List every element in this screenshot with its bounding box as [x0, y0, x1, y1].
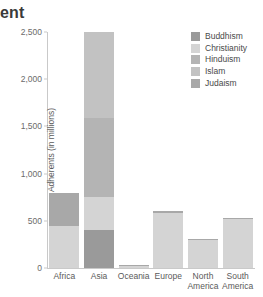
bar-segment-hinduism[interactable]: [84, 118, 114, 196]
y-axis-tick-mark: [44, 126, 47, 127]
legend-swatch-icon: [191, 79, 200, 88]
y-axis-tick-mark: [44, 79, 47, 80]
x-axis-label-line: South: [211, 271, 263, 281]
bar-segment-christianity[interactable]: [84, 197, 114, 231]
bar-segment-christianity[interactable]: [223, 218, 253, 268]
bar-asia[interactable]: [84, 32, 114, 268]
legend-swatch-icon: [191, 32, 200, 41]
legend-item-hinduism[interactable]: Hinduism: [191, 54, 247, 66]
legend-label: Buddhism: [205, 32, 243, 41]
legend-item-buddhism[interactable]: Buddhism: [191, 31, 247, 43]
legend-item-christianity[interactable]: Christianity: [191, 43, 247, 55]
legend-item-judaism[interactable]: Judaism: [191, 77, 247, 89]
bar-segment-judaism[interactable]: [153, 211, 183, 213]
bar-europe[interactable]: [153, 211, 183, 268]
bar-south-america[interactable]: [223, 218, 253, 269]
bar-segment-buddhism[interactable]: [84, 230, 114, 268]
legend-label: Islam: [205, 67, 225, 76]
bar-africa[interactable]: [49, 193, 79, 268]
legend-item-islam[interactable]: Islam: [191, 66, 247, 78]
legend-label: Hinduism: [205, 55, 240, 64]
y-axis-tick-mark: [44, 220, 47, 221]
legend-label: Christianity: [205, 44, 247, 53]
bar-segment-christianity[interactable]: [188, 239, 218, 268]
bar-segment-christianity[interactable]: [119, 266, 149, 268]
legend-swatch-icon: [191, 44, 200, 53]
bar-segment-christianity[interactable]: [49, 226, 79, 268]
y-axis-label: Adherents (in millions): [46, 108, 56, 192]
bar-north-america[interactable]: [188, 239, 218, 268]
legend-label: Judaism: [205, 79, 237, 88]
chart-legend: BuddhismChristianityHinduismIslamJudaism: [191, 31, 247, 89]
x-axis-label-line: America: [211, 281, 263, 291]
legend-swatch-icon: [191, 55, 200, 64]
x-axis-line: [47, 268, 255, 269]
y-axis-tick-mark: [44, 173, 47, 174]
bar-segment-judaism[interactable]: [49, 193, 79, 227]
y-axis-tick-mark: [44, 32, 47, 33]
bar-segment-christianity[interactable]: [153, 213, 183, 268]
bar-oceania[interactable]: [119, 265, 149, 268]
legend-swatch-icon: [191, 67, 200, 76]
page-title: ent: [0, 4, 25, 22]
y-axis-tick-mark: [44, 268, 47, 269]
chart-root: ent Adherents (in millions) 05001,0001,5…: [0, 0, 263, 297]
x-axis-label-south-america: SouthAmerica: [211, 271, 263, 291]
bar-segment-islam[interactable]: [84, 32, 114, 118]
